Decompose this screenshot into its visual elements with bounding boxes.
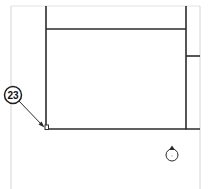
diagram-canvas: 23 bbox=[0, 0, 212, 189]
symbol-circle bbox=[166, 149, 178, 161]
callout-leader bbox=[19, 101, 45, 128]
leader-line bbox=[19, 101, 42, 125]
callout-23: 23 bbox=[5, 87, 22, 104]
symbol-center-dot bbox=[171, 155, 173, 157]
corner-marker bbox=[45, 125, 49, 130]
frame bbox=[11, 6, 200, 189]
drawing-lines bbox=[46, 6, 200, 130]
arrow-up-icon bbox=[169, 146, 175, 151]
callout-label: 23 bbox=[7, 90, 19, 101]
circle-arrow-symbol bbox=[166, 146, 178, 162]
